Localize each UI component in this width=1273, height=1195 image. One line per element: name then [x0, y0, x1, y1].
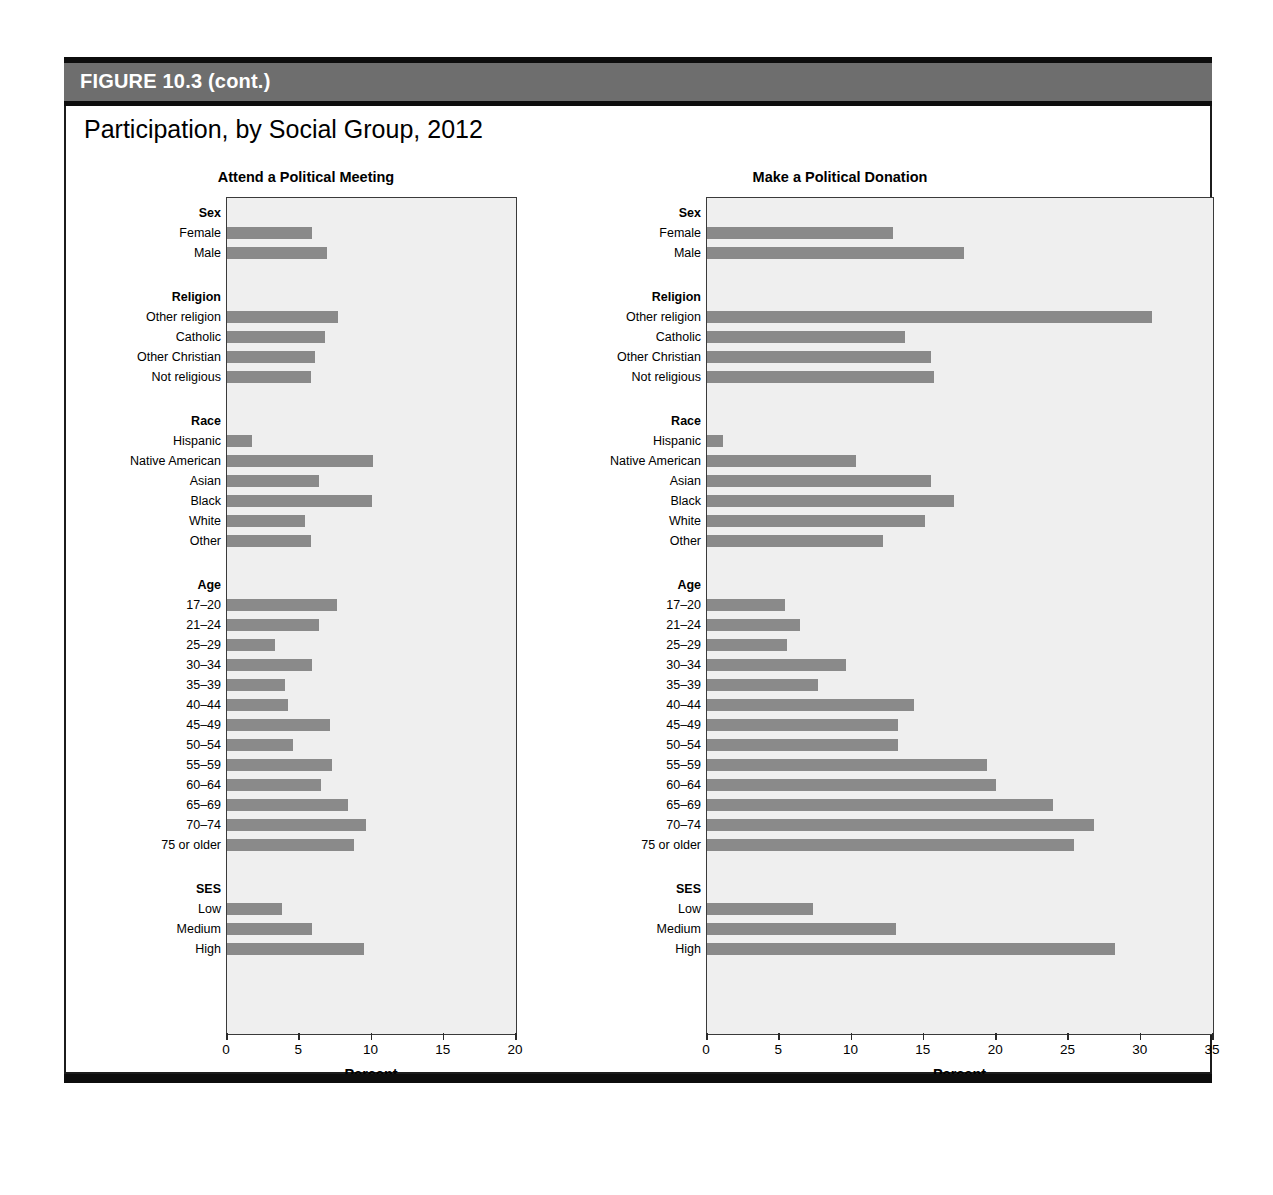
bar [707, 679, 818, 691]
bar [227, 639, 275, 651]
category-label: 45–49 [82, 715, 221, 735]
bar [707, 923, 896, 935]
bar-row: White [554, 511, 1194, 531]
bar [707, 719, 898, 731]
x-axis-tick-label: 0 [206, 1042, 246, 1057]
bar [227, 227, 312, 239]
bar [707, 799, 1053, 811]
bar [707, 227, 893, 239]
bar-row: High [82, 939, 534, 959]
x-axis-tick-label: 10 [831, 1042, 871, 1057]
figure-footer-rule [64, 1074, 1212, 1083]
x-axis-tick [851, 1033, 853, 1040]
bar-row: Native American [554, 451, 1194, 471]
x-axis-tick [515, 1033, 517, 1040]
bar-row: Other Christian [82, 347, 534, 367]
bar-row: 65–69 [554, 795, 1194, 815]
category-label: 17–20 [82, 595, 221, 615]
bar [227, 699, 288, 711]
bar [227, 759, 332, 771]
category-label: 21–24 [554, 615, 701, 635]
category-label: 40–44 [554, 695, 701, 715]
category-label: 25–29 [554, 635, 701, 655]
group-header-row: Religion [554, 287, 1194, 307]
bar-row: 21–24 [82, 615, 534, 635]
bar-row: Hispanic [554, 431, 1194, 451]
category-label: Male [554, 243, 701, 263]
bar [707, 331, 905, 343]
x-axis: Percent 05101520253035 [706, 1033, 1213, 1077]
bar [227, 331, 325, 343]
category-label: 60–64 [554, 775, 701, 795]
category-label: 75 or older [82, 835, 221, 855]
x-axis-tick [923, 1033, 925, 1040]
bar-rows: SexFemaleMaleReligionOther religionCatho… [554, 197, 1194, 1033]
x-axis-tick [995, 1033, 997, 1040]
category-label: 55–59 [82, 755, 221, 775]
bar-row: Male [554, 243, 1194, 263]
category-label: Catholic [82, 327, 221, 347]
category-label: Other religion [82, 307, 221, 327]
x-axis-tick-label: 15 [903, 1042, 943, 1057]
figure-number-label: FIGURE 10.3 (cont.) [80, 70, 271, 93]
category-label: Not religious [82, 367, 221, 387]
category-label: 60–64 [82, 775, 221, 795]
bar-row: Asian [82, 471, 534, 491]
bar-row: 65–69 [82, 795, 534, 815]
group-header-row: Race [554, 411, 1194, 431]
bar-row: 55–59 [82, 755, 534, 775]
bar-row: White [82, 511, 534, 531]
group-header-row: Religion [82, 287, 534, 307]
bar-row: Other religion [554, 307, 1194, 327]
figure-page: FIGURE 10.3 (cont.) Participation, by So… [0, 0, 1273, 1195]
bar [707, 495, 954, 507]
bar [707, 475, 931, 487]
bar [227, 619, 319, 631]
category-label: White [82, 511, 221, 531]
bar-row: Low [554, 899, 1194, 919]
x-axis-tick [778, 1033, 780, 1040]
bar [707, 659, 846, 671]
bar [707, 247, 964, 259]
bar-rows: SexFemaleMaleReligionOther religionCatho… [82, 197, 534, 1033]
category-label: 65–69 [82, 795, 221, 815]
category-label: Native American [554, 451, 701, 471]
bar [227, 659, 312, 671]
category-label: 35–39 [82, 675, 221, 695]
x-axis-tick [371, 1033, 373, 1040]
bar-row: Male [82, 243, 534, 263]
group-label: Religion [82, 287, 221, 307]
category-label: Asian [82, 471, 221, 491]
bar-row: 50–54 [82, 735, 534, 755]
group-header-row: Age [82, 575, 534, 595]
bar-row: 35–39 [82, 675, 534, 695]
bar [227, 719, 330, 731]
bar [707, 639, 787, 651]
category-label: 25–29 [82, 635, 221, 655]
category-label: 75 or older [554, 835, 701, 855]
bar [707, 515, 925, 527]
bar-row: 45–49 [82, 715, 534, 735]
bar-row: 40–44 [554, 695, 1194, 715]
bar [227, 435, 252, 447]
figure-subtitle: Participation, by Social Group, 2012 [84, 115, 483, 144]
x-axis-tick-label: 35 [1192, 1042, 1232, 1057]
category-label: Hispanic [82, 431, 221, 451]
bar [707, 839, 1074, 851]
bar-row: Medium [554, 919, 1194, 939]
bar [707, 535, 883, 547]
category-label: 50–54 [554, 735, 701, 755]
category-label: High [82, 939, 221, 959]
category-label: 50–54 [82, 735, 221, 755]
bar [707, 759, 987, 771]
bar-row: 17–20 [554, 595, 1194, 615]
figure-container: FIGURE 10.3 (cont.) Participation, by So… [64, 57, 1212, 1131]
bar-row: 70–74 [554, 815, 1194, 835]
category-label: Asian [554, 471, 701, 491]
bar-row: 30–34 [82, 655, 534, 675]
x-axis-tick-label: 15 [423, 1042, 463, 1057]
group-label: Race [554, 411, 701, 431]
category-label: Other Christian [82, 347, 221, 367]
bar [227, 779, 321, 791]
bar-row: Low [82, 899, 534, 919]
